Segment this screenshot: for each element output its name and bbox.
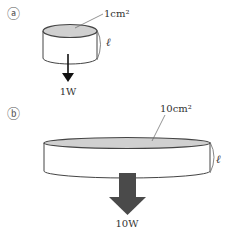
length-brace-a (97, 30, 101, 60)
panel-b-marker: ⓑ (7, 106, 20, 121)
panel-a: ⓐ ℓ 1cm² 1W (7, 6, 130, 97)
length-brace-b (210, 142, 214, 173)
power-label-a: 1W (60, 86, 77, 97)
small-cylinder-top-face (43, 25, 97, 38)
length-label-b: ℓ (216, 153, 221, 166)
area-label-b: 10cm² (160, 103, 192, 114)
panel-b: ⓑ ℓ 10cm² 10W (7, 103, 222, 229)
thick-arrow-icon (109, 173, 146, 215)
area-label-a: 1cm² (104, 8, 129, 19)
area-leader-b (152, 115, 165, 141)
power-label-b: 10W (115, 218, 139, 229)
small-cylinder (43, 25, 97, 65)
length-label-a: ℓ (106, 36, 111, 49)
panel-a-marker: ⓐ (7, 6, 20, 21)
diagram-canvas: ⓐ ℓ 1cm² 1W ⓑ ℓ 10cm² (0, 0, 225, 240)
wide-cylinder-top-face (44, 138, 210, 149)
wide-cylinder (44, 138, 210, 178)
